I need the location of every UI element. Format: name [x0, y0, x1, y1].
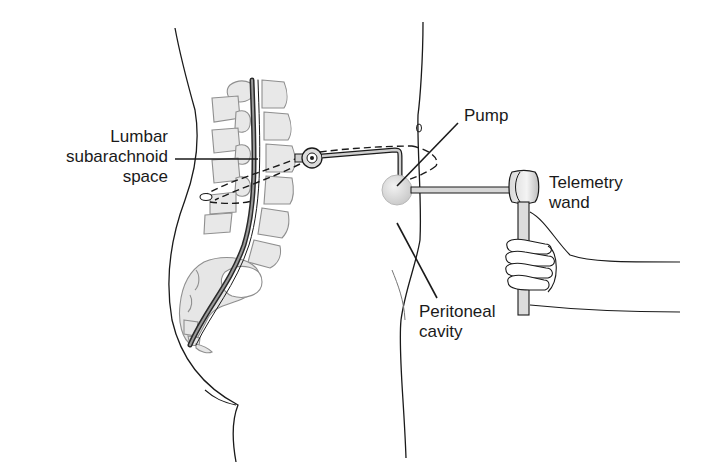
label-line: Pump [464, 106, 508, 126]
label-lumbar-subarachnoid-space: Lumbar subarachnoid space [60, 127, 168, 187]
label-line: Peritoneal [419, 302, 496, 322]
label-line: wand [549, 193, 623, 213]
label-line: space [60, 167, 168, 187]
leader-line-peritoneal [397, 223, 437, 298]
label-line: Lumbar [60, 127, 168, 147]
label-peritoneal-cavity: Peritoneal cavity [419, 302, 496, 342]
hand [506, 212, 680, 312]
anatomy-illustration [0, 0, 713, 466]
leader-line-pump [397, 123, 458, 186]
pump-device [382, 175, 412, 205]
label-line: subarachnoid [60, 147, 168, 167]
body-outline [169, 22, 423, 462]
catheter-connector [295, 148, 400, 182]
lumbar-vertebrae [204, 80, 295, 268]
label-line: cavity [419, 322, 496, 342]
label-line: Telemetry [549, 173, 623, 193]
label-pump: Pump [464, 106, 508, 126]
illustration-canvas: Lumbar subarachnoid space Pump Telemetry… [0, 0, 713, 466]
label-telemetry-wand: Telemetry wand [549, 173, 623, 213]
catheter-tip [200, 194, 212, 201]
